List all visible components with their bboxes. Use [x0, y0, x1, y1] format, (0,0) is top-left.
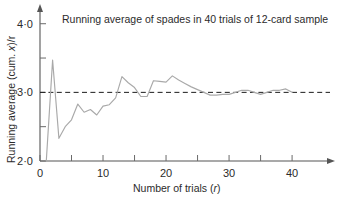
- y-axis-tick-labels: 2·03·04·0: [17, 18, 33, 167]
- x-axis-tick-labels: 010203040: [37, 167, 298, 179]
- y-axis-title-prefix: Running average (cum.: [5, 51, 17, 163]
- series-line-running-average: [46, 60, 292, 161]
- x-axis-title-suffix: ): [217, 182, 221, 194]
- x-axis-title: Number of trials (r): [133, 182, 221, 194]
- chart-title: Running average of spades in 40 trials o…: [62, 13, 328, 25]
- x-tick-label-20: 20: [160, 167, 172, 179]
- x-axis-title-prefix: Number of trials (: [133, 182, 214, 194]
- x-tick-label-30: 30: [223, 167, 235, 179]
- y-axis-title-suffix: )/r: [5, 35, 17, 45]
- x-axis-arrow-icon: [327, 158, 335, 164]
- x-tick-label-0: 0: [37, 167, 43, 179]
- y-axis-arrow-icon: [37, 4, 43, 12]
- y-tick-label-4: 4·0: [17, 18, 33, 30]
- x-tick-label-40: 40: [286, 167, 298, 179]
- x-axis-ticks: [40, 155, 292, 161]
- svg-text:Number of trials (r): Number of trials (r): [133, 182, 221, 194]
- y-tick-label-2: 2·0: [17, 155, 33, 167]
- x-tick-label-10: 10: [97, 167, 109, 179]
- svg-text:Running average (cum. x)/r: Running average (cum. x)/r: [5, 35, 17, 163]
- y-tick-label-3: 3·0: [17, 86, 33, 98]
- chart-figure: Running average of spades in 40 trials o…: [0, 0, 337, 198]
- running-average-line-chart: Running average of spades in 40 trials o…: [0, 0, 337, 198]
- y-axis-title: Running average (cum. x)/r: [5, 35, 17, 163]
